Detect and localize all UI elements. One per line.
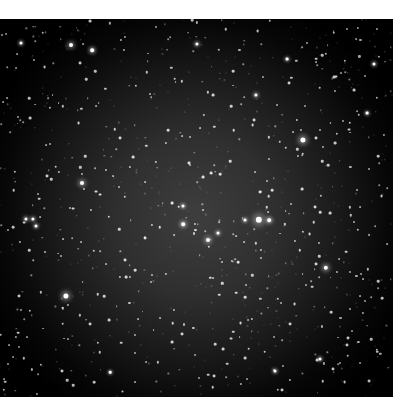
faint-star: [209, 172, 212, 175]
faint-star: [258, 190, 261, 193]
faint-star: [62, 238, 64, 240]
faint-star: [57, 171, 59, 173]
faint-star: [87, 227, 88, 228]
faint-star: [104, 155, 105, 156]
faint-star: [344, 62, 345, 63]
bright-star: [35, 225, 38, 228]
faint-star: [211, 285, 212, 286]
faint-star: [224, 79, 225, 80]
faint-star: [228, 108, 229, 109]
faint-star: [151, 274, 153, 276]
faint-star: [200, 188, 201, 189]
faint-star: [194, 366, 195, 367]
faint-star: [175, 81, 177, 83]
faint-star: [179, 369, 180, 370]
faint-star: [48, 170, 49, 171]
faint-star: [157, 167, 158, 168]
faint-star: [357, 27, 359, 29]
faint-star: [78, 262, 79, 263]
faint-star: [345, 250, 348, 253]
faint-star: [275, 126, 276, 127]
faint-star: [349, 132, 351, 134]
faint-star: [249, 382, 250, 383]
faint-star: [212, 328, 213, 329]
faint-star: [103, 238, 104, 239]
faint-star: [189, 38, 190, 39]
faint-star: [374, 225, 376, 227]
faint-star: [212, 374, 215, 377]
faint-star: [15, 181, 17, 183]
faint-star: [212, 94, 215, 97]
faint-star: [261, 313, 262, 314]
faint-star: [162, 333, 163, 334]
faint-star: [6, 67, 8, 69]
faint-star: [359, 362, 361, 364]
faint-star: [288, 323, 291, 326]
faint-star: [37, 193, 39, 195]
faint-star: [334, 222, 335, 223]
faint-star: [72, 335, 73, 336]
faint-star: [372, 379, 373, 380]
faint-star: [243, 299, 244, 300]
faint-star: [368, 168, 370, 170]
faint-star: [386, 243, 388, 245]
faint-star: [87, 97, 89, 99]
faint-star: [289, 340, 290, 341]
faint-star: [13, 177, 14, 178]
faint-star: [368, 380, 371, 383]
faint-star: [371, 297, 373, 299]
faint-star: [70, 264, 71, 265]
faint-star: [365, 396, 366, 397]
faint-star: [0, 204, 1, 205]
faint-star: [315, 57, 318, 60]
faint-star: [296, 155, 298, 157]
faint-star: [276, 310, 277, 311]
faint-star: [324, 53, 326, 55]
faint-star: [376, 97, 378, 99]
faint-star: [133, 302, 134, 303]
faint-star: [196, 329, 197, 330]
faint-star: [292, 264, 293, 265]
faint-star: [336, 287, 337, 288]
faint-star: [188, 210, 189, 211]
faint-star: [123, 20, 124, 21]
faint-star: [281, 122, 282, 123]
faint-star: [297, 329, 298, 330]
faint-star: [188, 99, 189, 100]
faint-star: [14, 70, 15, 71]
faint-star: [61, 322, 64, 325]
faint-star: [298, 288, 299, 289]
faint-star: [47, 294, 48, 295]
faint-star: [338, 258, 340, 260]
faint-star: [342, 186, 343, 187]
faint-star: [173, 348, 175, 350]
faint-star: [23, 357, 25, 359]
bright-star: [267, 218, 271, 222]
faint-star: [247, 233, 248, 234]
faint-star: [372, 283, 373, 284]
faint-star: [364, 300, 366, 302]
faint-star: [282, 365, 284, 367]
faint-star: [218, 221, 220, 223]
faint-star: [207, 191, 208, 192]
faint-star: [85, 319, 87, 321]
faint-star: [356, 306, 357, 307]
faint-star: [257, 331, 258, 332]
faint-star: [67, 109, 68, 110]
faint-star: [375, 111, 376, 112]
faint-star: [184, 312, 185, 313]
faint-star: [244, 40, 246, 42]
faint-star: [129, 276, 131, 278]
faint-star: [173, 309, 175, 311]
faint-star: [352, 84, 353, 85]
faint-star: [210, 312, 211, 313]
faint-star: [263, 324, 264, 325]
faint-star: [251, 66, 252, 67]
faint-star: [322, 146, 324, 148]
faint-star: [322, 112, 323, 113]
faint-star: [79, 345, 80, 346]
faint-star: [301, 155, 303, 157]
faint-star: [339, 87, 340, 88]
faint-star: [284, 223, 286, 225]
faint-star: [65, 45, 66, 46]
